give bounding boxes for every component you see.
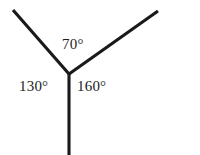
angle-label-left: 130°: [19, 79, 48, 94]
angle-label-top: 70°: [62, 37, 84, 52]
angle-label-right: 160°: [77, 79, 106, 94]
